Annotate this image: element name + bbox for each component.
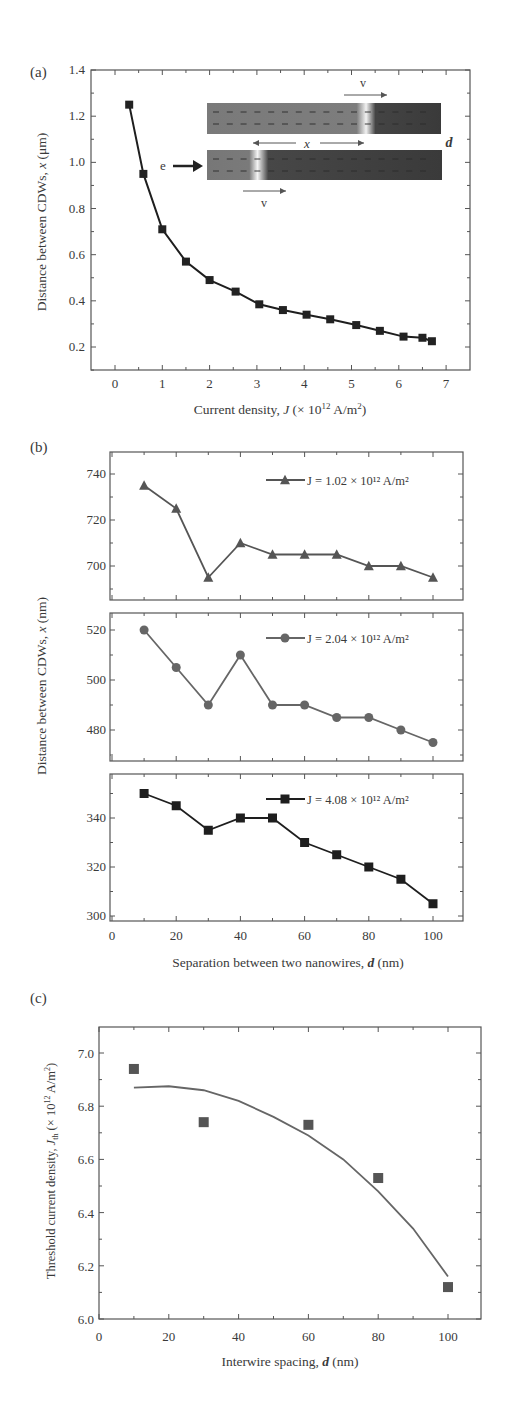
square-marker: [140, 789, 149, 798]
circle-marker: [172, 663, 181, 672]
square-marker: [199, 1117, 209, 1127]
circle-marker: [236, 651, 245, 660]
x-tick-label: 6: [396, 376, 403, 391]
square-marker: [396, 875, 405, 884]
triangle-marker: [171, 503, 181, 513]
square-marker: [303, 1120, 313, 1130]
square-marker: [418, 334, 426, 342]
square-marker: [443, 1282, 453, 1292]
x-tick-label: 3: [254, 376, 261, 391]
y-tick-label: 1.4: [69, 62, 86, 77]
y-tick-label: 520: [87, 622, 107, 637]
y-tick-label: 6.0: [78, 1312, 94, 1327]
y-tick-label: 0.8: [69, 201, 85, 216]
inset-nanowires: vxdev: [160, 76, 453, 210]
y-tick-label: 0.6: [69, 247, 86, 262]
d-label: d: [446, 135, 454, 150]
plot-frame: [110, 452, 463, 600]
square-marker: [236, 814, 245, 823]
x-tick-label: 5: [348, 376, 355, 391]
circle-marker: [268, 701, 277, 710]
y-tick-label: 480: [87, 722, 107, 737]
circle-marker: [364, 713, 373, 722]
x-tick-label: 1: [159, 376, 166, 391]
y-tick-label: 720: [87, 512, 107, 527]
square-marker: [326, 315, 334, 323]
square-marker: [400, 333, 408, 341]
square-marker: [158, 225, 166, 233]
x-tick-label: 0: [112, 376, 119, 391]
panel-label-b: (b): [30, 439, 48, 456]
data-line: [144, 486, 433, 578]
y-tick-label: 700: [87, 558, 107, 573]
square-marker: [139, 170, 147, 178]
y-tick-label: 1.2: [69, 108, 85, 123]
square-marker: [125, 101, 133, 109]
square-marker: [373, 1173, 383, 1183]
x-tick-label: 100: [423, 928, 443, 943]
x-tick-label: 80: [362, 928, 375, 943]
square-marker: [268, 814, 277, 823]
panel-label-c: (c): [30, 990, 47, 1007]
square-marker: [206, 276, 214, 284]
velocity-label: v: [261, 196, 267, 210]
y-axis-label: Threshold current density, Jth (× 1012 A…: [43, 1063, 60, 1279]
data-line: [129, 105, 432, 342]
square-marker: [352, 321, 360, 329]
x-tick-label: 60: [298, 928, 311, 943]
figure: (a)012345670.20.40.60.81.01.21.4Current …: [0, 0, 505, 1404]
y-tick-label: 6.4: [78, 1206, 95, 1221]
square-marker: [279, 306, 287, 314]
circle-marker: [204, 701, 213, 710]
x-tick-label: 2: [206, 376, 213, 391]
circle-marker: [281, 634, 290, 643]
x-tick-label: 40: [232, 1329, 245, 1344]
square-marker: [281, 795, 290, 804]
square-marker: [182, 258, 190, 266]
data-line: [144, 794, 433, 904]
square-marker: [204, 826, 213, 835]
x-axis-label: Interwire spacing, d (nm): [221, 1354, 358, 1369]
x-tick-label: 40: [234, 928, 247, 943]
y-tick-label: 500: [87, 672, 107, 687]
panel-a: (a)012345670.20.40.60.81.01.21.4Current …: [30, 62, 470, 417]
y-tick-label: 340: [87, 810, 107, 825]
y-tick-label: 6.8: [78, 1099, 94, 1114]
legend-label: J = 2.04 × 10¹² A/m²: [307, 632, 409, 646]
legend-label: J = 4.08 × 10¹² A/m²: [307, 793, 409, 807]
triangle-marker: [139, 480, 149, 490]
x-tick-label: 4: [301, 376, 308, 391]
legend-2: J = 2.04 × 10¹² A/m²: [266, 632, 409, 646]
velocity-label: v: [360, 76, 366, 90]
y-tick-label: 6.6: [78, 1152, 95, 1167]
y-tick-label: 1.0: [69, 154, 85, 169]
panel-c: (c)0204060801006.06.26.46.66.87.0Interwi…: [30, 990, 481, 1369]
square-marker: [429, 899, 438, 908]
square-marker: [332, 850, 341, 859]
electron-label: e: [160, 158, 166, 173]
x-tick-label: 60: [302, 1329, 315, 1344]
plot-frame: [99, 1027, 481, 1319]
legend-1: J = 1.02 × 10¹² A/m²: [266, 474, 409, 488]
legend-3: J = 4.08 × 10¹² A/m²: [266, 793, 409, 807]
square-marker: [172, 801, 181, 810]
y-tick-label: 6.2: [78, 1259, 94, 1274]
square-marker: [428, 337, 436, 345]
square-marker: [300, 838, 309, 847]
y-tick-label: 0.2: [69, 339, 85, 354]
circle-marker: [396, 726, 405, 735]
y-axis-label: Distance between CDWs, x (nm): [34, 597, 49, 775]
panel-label-a: (a): [30, 64, 47, 81]
x-tick-label: 80: [372, 1329, 385, 1344]
square-marker: [376, 327, 384, 335]
y-tick-label: 7.0: [78, 1046, 94, 1061]
circle-marker: [300, 701, 309, 710]
y-tick-label: 300: [87, 908, 107, 923]
panel-b: (b)700720740J = 1.02 × 10¹² A/m²48050052…: [30, 439, 463, 970]
x-axis-label: Separation between two nanowires, d (nm): [172, 955, 404, 970]
circle-marker: [140, 626, 149, 635]
square-marker: [364, 863, 373, 872]
legend-label: J = 1.02 × 10¹² A/m²: [307, 474, 409, 488]
square-marker: [232, 288, 240, 296]
x-tick-label: 20: [170, 928, 183, 943]
